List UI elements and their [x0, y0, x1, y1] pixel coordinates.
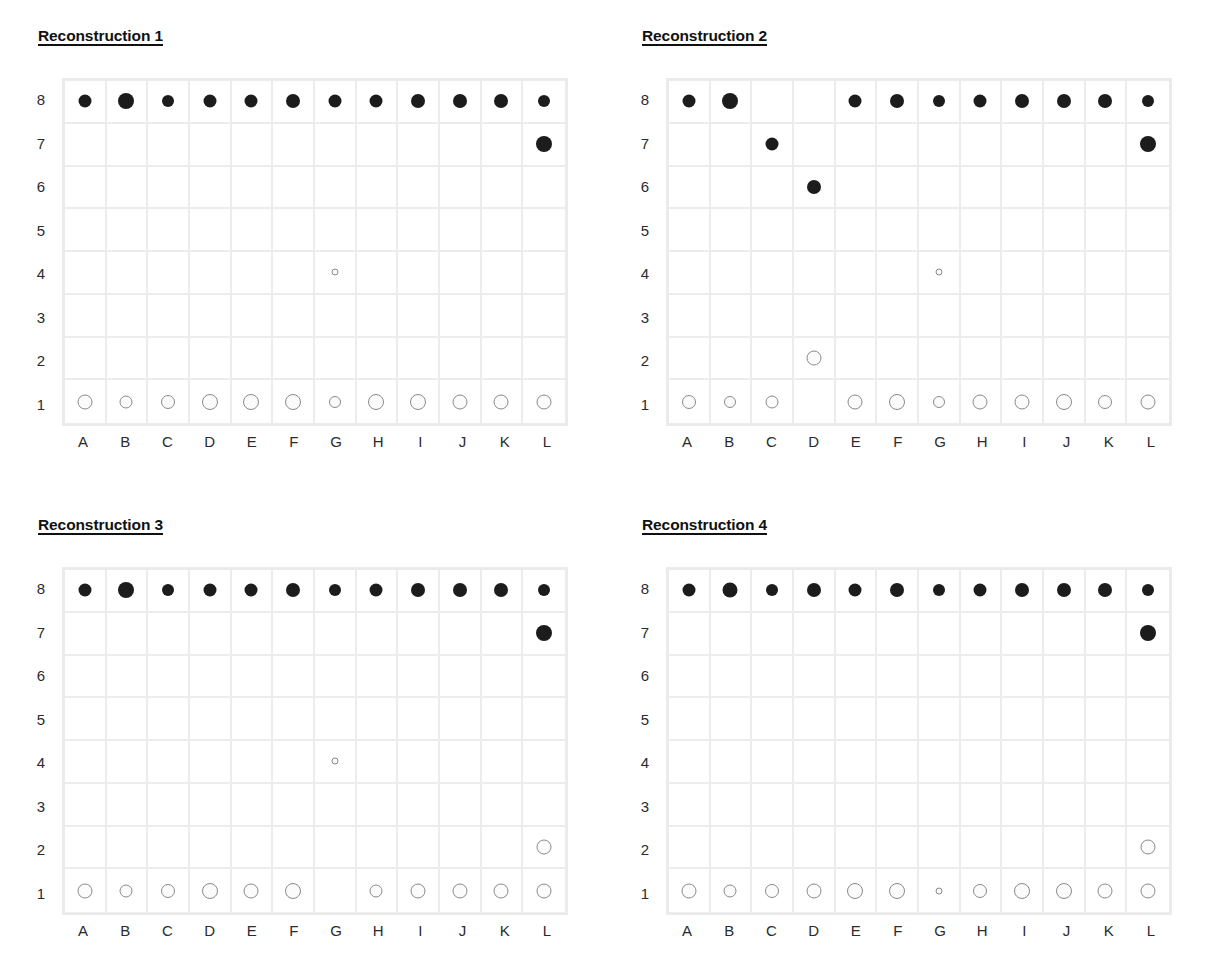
grid-cell-J7 — [1044, 613, 1086, 656]
grid-cell-E1 — [232, 869, 274, 912]
grid-cell-G6 — [919, 656, 961, 699]
grid-cell-E4 — [836, 252, 878, 295]
grid-cell-J2 — [440, 827, 482, 870]
grid-cell-C7 — [148, 124, 190, 167]
grid-cell-L1 — [523, 380, 565, 423]
x-axis-tick-label: I — [1003, 434, 1045, 460]
grid-cell-C7 — [148, 613, 190, 656]
grid-cell-A5 — [65, 209, 107, 252]
grid-cell-B1 — [711, 869, 753, 912]
grid-cell-F5 — [877, 698, 919, 741]
grid-cell-D4 — [794, 741, 836, 784]
grid-cell-G8 — [919, 570, 961, 613]
grid-cell-C4 — [148, 252, 190, 295]
grid-cell-J5 — [440, 698, 482, 741]
grid-cell-D2 — [190, 338, 232, 381]
data-point-marker-open — [452, 394, 467, 409]
grid-cell-F3 — [877, 784, 919, 827]
data-point-marker-open — [724, 396, 736, 408]
grid-cell-C8 — [148, 570, 190, 613]
grid-cell-F1 — [273, 380, 315, 423]
grid-cell-F8 — [273, 81, 315, 124]
grid-cell-G5 — [919, 698, 961, 741]
grid-cell-E4 — [232, 741, 274, 784]
grid-cell-B4 — [711, 741, 753, 784]
grid-cell-C6 — [752, 167, 794, 210]
grid-cell-F2 — [273, 827, 315, 870]
grid-cell-B5 — [107, 698, 149, 741]
grid-cell-C6 — [148, 167, 190, 210]
grid-cell-F1 — [273, 869, 315, 912]
grid-cell-G7 — [919, 613, 961, 656]
x-axis-tick-label: K — [1088, 434, 1130, 460]
grid-cell-A3 — [669, 295, 711, 338]
y-axis-tick-label: 5 — [28, 209, 54, 253]
data-point-marker-filled — [162, 95, 174, 107]
grid-cell-L4 — [523, 252, 565, 295]
data-point-marker-filled — [682, 584, 695, 597]
grid-cell-F1 — [877, 380, 919, 423]
grid-cell-L7 — [1127, 124, 1169, 167]
grid-cell-C2 — [148, 827, 190, 870]
grid-cell-H1 — [961, 380, 1003, 423]
grid-cell-B8 — [107, 570, 149, 613]
y-axis-tick-label: 6 — [632, 654, 658, 698]
grid-cell-G6 — [315, 656, 357, 699]
grid-cell-A8 — [65, 570, 107, 613]
grid-cell-C1 — [148, 869, 190, 912]
grid-cell-C6 — [752, 656, 794, 699]
grid-cell-D5 — [190, 698, 232, 741]
grid-cell-L7 — [523, 124, 565, 167]
grid-cell-K8 — [482, 81, 524, 124]
grid-cell-D3 — [190, 295, 232, 338]
grid-cell-K5 — [1086, 698, 1128, 741]
data-point-marker-open — [889, 883, 905, 899]
grid-cell-D5 — [794, 209, 836, 252]
data-point-marker-filled — [118, 93, 134, 109]
grid-cell-E1 — [232, 380, 274, 423]
data-point-marker-open — [806, 883, 821, 898]
grid-cell-B6 — [107, 167, 149, 210]
y-axis-tick-label: 3 — [632, 296, 658, 340]
data-point-marker-filled — [974, 95, 987, 108]
grid-cell-I7 — [398, 124, 440, 167]
y-axis-tick-label: 8 — [632, 567, 658, 611]
grid-cell-B5 — [711, 698, 753, 741]
x-axis-tick-label: D — [793, 923, 835, 949]
x-axis-tick-label: E — [835, 923, 877, 949]
grid-cell-B3 — [107, 784, 149, 827]
data-point-marker-filled — [536, 136, 552, 152]
x-axis-labels: ABCDEFGHIJKL — [62, 434, 568, 460]
grid-cell-K8 — [1086, 570, 1128, 613]
y-axis-tick-label: 5 — [632, 698, 658, 742]
grid-cell-G8 — [315, 81, 357, 124]
x-axis-tick-label: L — [526, 923, 568, 949]
grid-cell-E2 — [232, 338, 274, 381]
grid-cell-G2 — [919, 338, 961, 381]
y-axis-tick-label: 5 — [28, 698, 54, 742]
grid-cell-I5 — [1002, 209, 1044, 252]
data-point-marker-open — [681, 883, 696, 898]
grid-cell-A6 — [669, 656, 711, 699]
grid-cell-L3 — [1127, 784, 1169, 827]
data-point-marker-filled — [286, 94, 300, 108]
grid-cell-B2 — [107, 827, 149, 870]
x-axis-tick-label: F — [273, 923, 315, 949]
y-axis-tick-label: 7 — [28, 122, 54, 166]
grid-cell-H6 — [357, 167, 399, 210]
grid-cell-H3 — [961, 295, 1003, 338]
grid-cell-E5 — [232, 698, 274, 741]
grid-cell-I7 — [1002, 124, 1044, 167]
grid-cell-I8 — [398, 81, 440, 124]
grid-cell-A4 — [65, 741, 107, 784]
grid-cell-J7 — [440, 124, 482, 167]
grid-cell-H3 — [961, 784, 1003, 827]
grid-cell-E4 — [232, 252, 274, 295]
grid-cell-A4 — [669, 741, 711, 784]
grid-cell-J1 — [1044, 380, 1086, 423]
grid-cell-J7 — [440, 613, 482, 656]
data-point-marker-open — [77, 394, 92, 409]
x-axis-tick-label: L — [1130, 434, 1172, 460]
data-point-marker-filled — [411, 94, 425, 108]
grid-cell-K3 — [482, 784, 524, 827]
